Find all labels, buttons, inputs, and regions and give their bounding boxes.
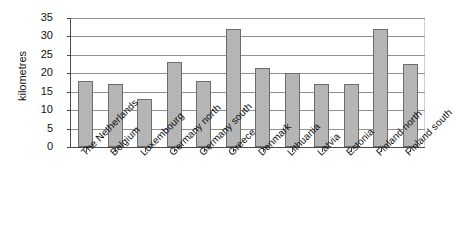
y-tick-label: 35 (31, 12, 53, 23)
bar (373, 29, 388, 147)
y-tick-label: 25 (31, 49, 53, 60)
bar (255, 68, 270, 147)
y-tick-mark (67, 147, 71, 148)
y-axis-title: kilometres (16, 16, 28, 136)
y-tick-label: 20 (31, 67, 53, 78)
x-axis-labels: The NetherlandsBelgiumLuxembourgGermany … (0, 150, 436, 246)
y-tick-label: 10 (31, 104, 53, 115)
y-tick-label: 30 (31, 30, 53, 41)
y-tick-label: 5 (31, 123, 53, 134)
y-tick-label: 15 (31, 86, 53, 97)
